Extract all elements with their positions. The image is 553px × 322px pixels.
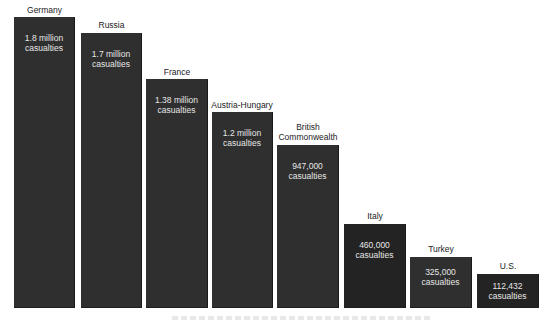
bar-turkey: 325,000 casualties xyxy=(410,257,472,308)
bar-russia: 1.7 million casualties xyxy=(81,33,142,308)
scan-bleed-through xyxy=(172,316,432,320)
category-label-germany: Germany xyxy=(14,5,75,15)
bar-austria-hungary: 1.2 million casualties xyxy=(212,112,273,308)
bar-value-russia: 1.7 million casualties xyxy=(81,49,141,69)
bar-value-turkey: 325,000 casualties xyxy=(410,267,471,287)
bar-us: 112,432 casualties xyxy=(477,274,539,308)
category-label-italy: Italy xyxy=(344,211,406,221)
category-label-austria-hungary: Austria-Hungary xyxy=(206,100,278,110)
bar-british-commonwealth: 947,000 casualties xyxy=(277,145,339,308)
bar-value-germany: 1.8 million casualties xyxy=(14,33,74,53)
bar-value-us: 112,432 casualties xyxy=(477,281,538,301)
bar-value-british-commonwealth: 947,000 casualties xyxy=(277,161,338,181)
bar-value-austria-hungary: 1.2 million casualties xyxy=(212,128,272,148)
category-label-british-commonwealth: British Commonwealth xyxy=(270,122,346,142)
bar-value-italy: 460,000 casualties xyxy=(344,240,405,260)
category-label-france: France xyxy=(146,67,208,77)
category-label-us: U.S. xyxy=(477,261,539,271)
casualties-bar-chart: Germany 1.8 million casualties Russia 1.… xyxy=(0,0,553,322)
bar-italy: 460,000 casualties xyxy=(344,224,406,308)
bar-value-france: 1.38 million casualties xyxy=(146,95,207,115)
bar-france: 1.38 million casualties xyxy=(146,79,208,308)
category-label-turkey: Turkey xyxy=(410,244,472,254)
bar-germany: 1.8 million casualties xyxy=(14,17,75,308)
category-label-russia: Russia xyxy=(81,20,142,30)
